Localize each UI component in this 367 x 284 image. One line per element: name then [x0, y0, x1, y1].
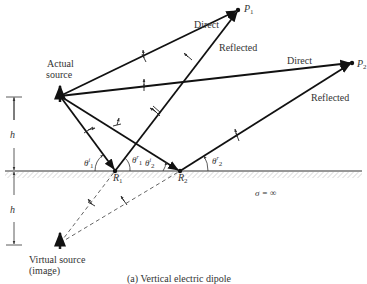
r2-label: R2 — [178, 173, 188, 185]
virtual-source-label-line1: Virtual source — [29, 255, 85, 265]
actual-source-label-line1: Actual — [47, 59, 74, 69]
p1-label: P1 — [244, 4, 254, 16]
reflected-label-p2: Reflected — [311, 93, 349, 103]
p2-label: P2 — [357, 59, 367, 71]
theta-i1-label: θi1 — [84, 157, 94, 170]
theta-i2-label: θi2 — [145, 157, 155, 170]
incident-ray-r2 — [60, 96, 178, 170]
height-label-top: h — [10, 130, 15, 140]
point-p2 — [350, 61, 354, 65]
figure-caption: (a) Vertical electric dipole — [127, 274, 231, 284]
direct-label-p1: Direct — [194, 20, 219, 30]
direct-label-p2: Direct — [287, 56, 312, 66]
height-label-bottom: h — [10, 205, 15, 215]
theta-r2-label: θr2 — [212, 155, 222, 168]
theta-r1-label: θr1 — [132, 154, 142, 167]
conductivity-label: σ = ∞ — [255, 189, 276, 198]
point-p1 — [236, 8, 240, 12]
r1-label: R1 — [113, 173, 123, 185]
virtual-source-label-line2: (image) — [29, 266, 60, 276]
reflected-label-p1: Reflected — [219, 43, 257, 53]
actual-source-label-line2: source — [46, 70, 72, 80]
